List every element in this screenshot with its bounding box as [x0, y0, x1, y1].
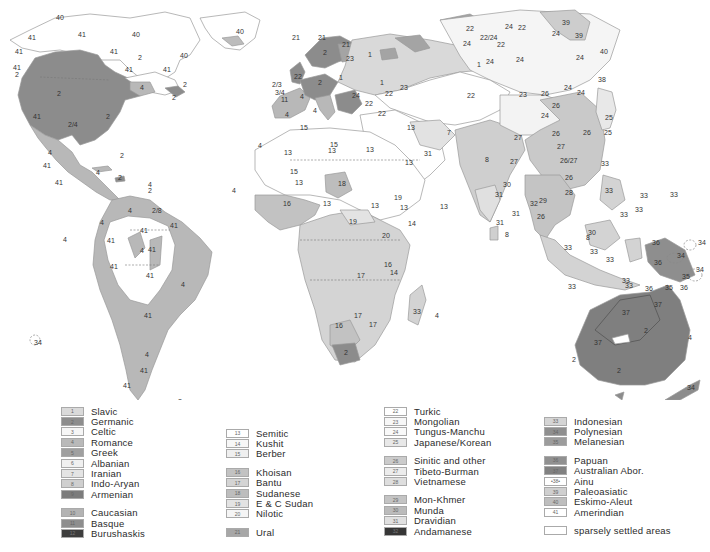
map-label: 4 [128, 207, 132, 214]
map-label: 2 [148, 187, 152, 194]
legend-item: 18Sudanese [226, 488, 313, 498]
map-label: 41 [170, 222, 178, 229]
legend-swatch: 34 [544, 427, 567, 436]
legend-label: Semitic [256, 428, 289, 439]
map-label: 41 [107, 237, 115, 244]
legend-label: Caucasian [91, 507, 138, 518]
map-label: 33 [413, 308, 421, 315]
map-label: 2/4 [68, 121, 78, 128]
legend-item: 5Greek [61, 448, 145, 458]
map-label: 41 [144, 312, 152, 319]
map-label: 25 [605, 114, 613, 121]
map-label: 33 [606, 256, 614, 263]
legend-label: sparsely settled areas [574, 525, 671, 536]
legend-swatch: 12 [61, 529, 84, 538]
legend-label: Ainu [574, 476, 594, 487]
map-label: 4 [285, 111, 289, 118]
map-label: 13 [284, 149, 292, 156]
map-label: 41 [125, 66, 133, 73]
map-label: 26 [552, 102, 560, 109]
map-label: 34 [696, 266, 704, 273]
map-label: 22/24 [480, 34, 498, 41]
map-label: 41 [78, 31, 86, 38]
map-label: 24 [516, 56, 524, 63]
legend-label: Germanic [91, 416, 134, 427]
legend-label: Tibeto-Burman [414, 466, 479, 477]
legend-label: Bantu [256, 477, 282, 488]
legend-swatch: 39 [544, 487, 567, 496]
map-label: 13 [400, 204, 408, 211]
map-label: 40 [180, 52, 188, 59]
map-label: 38 [598, 76, 606, 83]
legend-swatch: 2 [61, 417, 84, 426]
map-label: 22 [497, 41, 505, 48]
legend-swatch: 33 [544, 417, 567, 426]
legend-swatch: 37 [544, 466, 567, 475]
legend-label: Polynesian [574, 426, 622, 437]
legend-swatch: 13 [226, 429, 249, 438]
map-label: 24 [552, 30, 560, 37]
map-label: 33 [620, 211, 628, 218]
legend-item: 17Bantu [226, 478, 313, 488]
map-label: 19 [349, 218, 357, 225]
map-label: 40 [56, 14, 64, 21]
legend-item: 3Celtic [61, 427, 145, 437]
legend-label: Sinitic and other [414, 455, 486, 466]
legend-swatch: 15 [226, 449, 249, 458]
legend-swatch: 35 [544, 437, 567, 446]
map-label: 2 [344, 349, 348, 356]
map-label: 4 [181, 281, 185, 288]
map-label: 17 [354, 312, 362, 319]
legend-label: Andamanese [414, 526, 472, 537]
legend-swatch: 14 [226, 439, 249, 448]
legend-label: Slavic [91, 406, 118, 417]
map-label: 26 [583, 129, 591, 136]
map-label: 1 [477, 61, 481, 68]
map-label: 18 [338, 180, 346, 187]
legend-label: Iranian [91, 468, 121, 479]
map-label: 31 [495, 191, 503, 198]
map-label: 34 [34, 339, 42, 346]
legend-item: 34Polynesian [544, 426, 671, 436]
legend-label: Eskimo-Aleut [574, 496, 632, 507]
legend-item: 32Andamanese [384, 526, 491, 536]
legend-label: Mongolian [414, 416, 460, 427]
map-label: 22 [467, 92, 475, 99]
map-label: 41 [148, 246, 156, 253]
map-label: 13 [440, 203, 448, 210]
map-label: 33 [640, 192, 648, 199]
map-label: 20 [382, 232, 390, 239]
map-label: 26 [541, 90, 549, 97]
legend-item: 12Burushaskis [61, 528, 145, 538]
map-label: 22 [365, 100, 373, 107]
legend-swatch: 32 [384, 527, 407, 536]
map-label: 3/4 [275, 89, 285, 96]
map-label: 14 [390, 269, 398, 276]
legend-swatch: 26 [384, 456, 407, 465]
legend-item: sparsely settled areas [544, 526, 671, 536]
map-label: 30 [503, 181, 511, 188]
legend-swatch: •38• [544, 477, 567, 486]
map-label: 26 [537, 213, 545, 220]
legend-item: 41Amerindian [544, 507, 671, 517]
legend-item: 2Germanic [61, 416, 145, 426]
legend-label: Munda [414, 505, 444, 516]
map-label: 2 [138, 54, 142, 61]
map-label: 13 [366, 146, 374, 153]
map-label: 16 [335, 322, 343, 329]
map-label: 21 [292, 34, 300, 41]
legend-item: 8Indo-Aryan [61, 479, 145, 489]
map-label: 40 [236, 28, 244, 35]
legend-item: 21Ural [226, 527, 313, 537]
legend-swatch: 7 [61, 469, 84, 478]
legend-swatch: 9 [61, 490, 84, 499]
legend-item: 11Basque [61, 518, 145, 528]
legend-label: Indonesian [574, 416, 622, 427]
map-label: 19 [394, 194, 402, 201]
map-label: 22 [378, 110, 386, 117]
map-label: 33 [670, 191, 678, 198]
map-label: 4 [48, 149, 52, 156]
legend-afro-asiatic: 13Semitic14Kushit15Berber 16Khoisan17Ban… [226, 428, 313, 538]
map-label: 15 [300, 124, 308, 131]
legend-item: 16Khoisan [226, 467, 313, 477]
